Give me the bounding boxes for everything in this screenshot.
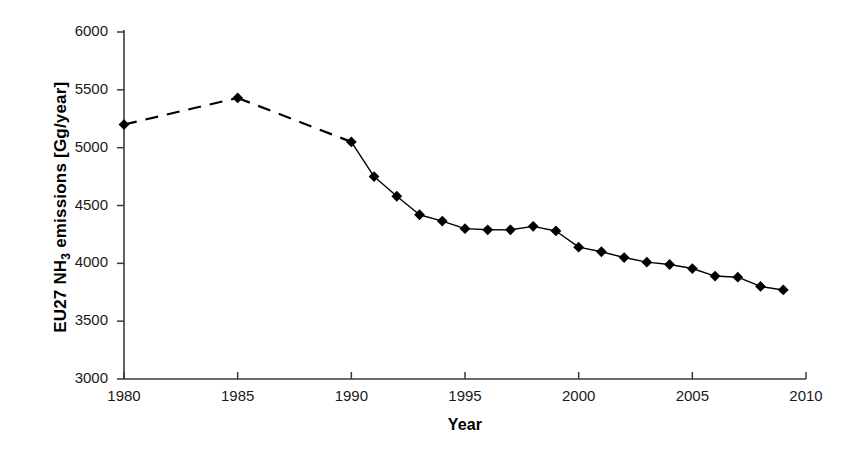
series-line-path: [124, 98, 783, 290]
x-tick-label: 1995: [435, 387, 495, 404]
data-point-marker: [528, 221, 539, 232]
data-point-marker: [596, 246, 607, 257]
plot-area: [0, 0, 862, 454]
y-axis-title: EU27 NH3 emissions [Gg/year]: [51, 27, 73, 387]
chart-figure: 3000350040004500500055006000 19801985199…: [0, 0, 862, 454]
x-tick-label: 1980: [94, 387, 154, 404]
series-segment: [397, 196, 420, 215]
y-axis-title-subscript: 3: [59, 253, 73, 260]
series-segment: [238, 98, 352, 142]
data-point-marker: [460, 223, 471, 234]
series-markers: [119, 93, 789, 296]
data-point-marker: [755, 281, 766, 292]
data-point-marker: [482, 224, 493, 235]
series-segment: [374, 177, 397, 197]
series-segment: [556, 231, 579, 247]
x-tick-label: 2010: [776, 387, 836, 404]
series-segment: [124, 98, 238, 125]
data-point-marker: [573, 242, 584, 253]
data-point-marker: [119, 119, 130, 130]
x-tick-label: 2000: [549, 387, 609, 404]
series-segment: [351, 142, 374, 177]
y-axis-title-units: emissions [Gg/year]: [51, 82, 70, 253]
data-point-marker: [437, 216, 448, 227]
data-point-marker: [505, 224, 516, 235]
y-axis-ticks: [117, 32, 124, 379]
y-axis-title-main: EU27 NH: [51, 260, 70, 333]
data-point-marker: [664, 259, 675, 270]
data-point-marker: [778, 285, 789, 296]
data-point-marker: [346, 136, 357, 147]
x-tick-label: 1990: [321, 387, 381, 404]
x-tick-label: 1985: [208, 387, 268, 404]
x-tick-label: 2005: [662, 387, 722, 404]
data-point-marker: [232, 93, 243, 104]
data-point-marker: [619, 252, 630, 263]
x-axis-title: Year: [124, 416, 806, 434]
x-axis-ticks: [124, 372, 806, 379]
data-point-marker: [732, 272, 743, 283]
data-point-marker: [551, 226, 562, 237]
data-point-marker: [710, 271, 721, 282]
data-point-marker: [687, 263, 698, 274]
data-point-marker: [641, 257, 652, 268]
